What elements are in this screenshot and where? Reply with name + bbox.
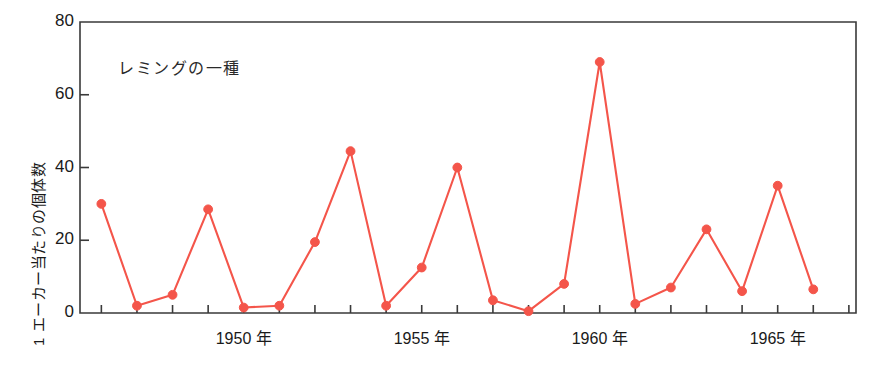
y-axis-ticks [80,95,89,241]
x-axis-ticks [101,305,849,313]
series-markers [97,58,818,316]
series-line [101,62,813,311]
axis-frame [80,22,856,313]
chart-figure: 1 エーカー当たりの個体数 レミングの一種 020406080 1950 年19… [0,0,882,365]
chart-plot-area [0,0,882,365]
